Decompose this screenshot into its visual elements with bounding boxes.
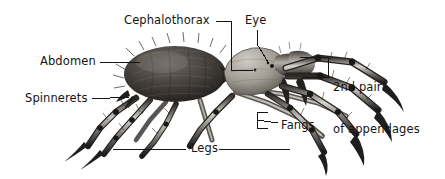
cephalothorax-shape [224,48,285,95]
label-spinnerets: Spinnerets [25,92,88,105]
label-second-pair-of-appendages: 2nd pair of appendages [333,52,420,164]
spider-anatomy-diagram: Cephalothorax Eye Abdomen 2nd pair of ap… [0,0,445,179]
label-eye: Eye [245,14,266,27]
label-second-pair-line-2: of appendages [333,122,420,136]
label-legs: Legs [191,142,218,155]
label-cephalothorax: Cephalothorax [124,14,210,27]
label-abdomen: Abdomen [40,55,96,68]
leader-fangs-stem [257,120,278,123]
label-fangs: Fangs [281,119,315,132]
label-second-pair-line-1: 2nd pair [333,80,420,94]
